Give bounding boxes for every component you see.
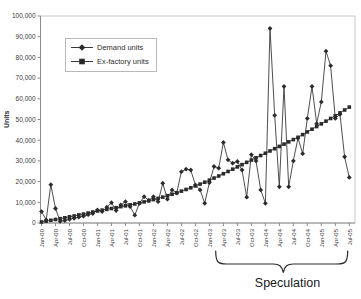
y-tick-label: 90,000	[16, 33, 36, 40]
data-point-square	[161, 195, 165, 199]
legend-item-ex-factory: Ex-factory units	[71, 55, 149, 68]
data-point-square	[86, 211, 90, 215]
x-tick-label: Oct-01	[137, 228, 143, 247]
y-tick-label: 0	[32, 219, 36, 226]
data-point-diamond	[132, 213, 137, 218]
data-point-diamond	[347, 175, 352, 180]
legend-item-demand: Demand units	[71, 41, 149, 54]
ex-factory-series-marker-icon	[71, 57, 93, 66]
data-point-diamond	[48, 182, 53, 187]
data-point-square	[282, 142, 286, 146]
data-point-square	[226, 170, 230, 174]
data-point-square	[40, 220, 44, 224]
data-point-square	[264, 151, 268, 155]
data-point-square	[334, 114, 338, 118]
y-tick-label: 50,000	[16, 116, 36, 123]
y-axis-title: Units	[3, 111, 10, 129]
x-tick-label: Jul-05	[347, 228, 353, 245]
x-tick-label: Jan-01	[95, 228, 101, 247]
data-point-square	[208, 178, 212, 182]
data-point-square	[142, 200, 146, 204]
data-point-diamond	[258, 187, 263, 192]
x-tick-label: Apr-02	[165, 228, 171, 247]
data-point-square	[152, 198, 156, 202]
x-tick-label: Apr-01	[109, 228, 115, 247]
data-point-square	[100, 208, 104, 212]
data-point-diamond	[328, 63, 333, 68]
data-point-diamond	[342, 154, 347, 159]
data-point-square	[184, 188, 188, 192]
data-point-square	[82, 212, 86, 216]
data-point-square	[49, 219, 53, 223]
data-point-diamond	[39, 209, 44, 214]
data-point-diamond	[272, 113, 277, 118]
demand-series-marker-icon	[71, 43, 93, 52]
data-point-square	[338, 111, 342, 115]
data-point-diamond	[160, 181, 165, 186]
data-point-diamond	[282, 84, 287, 89]
data-point-diamond	[235, 159, 240, 164]
data-point-square	[315, 125, 319, 129]
y-tick-label: 30,000	[16, 157, 36, 164]
data-point-square	[254, 156, 258, 160]
data-point-diamond	[179, 169, 184, 174]
data-point-square	[287, 140, 291, 144]
y-tick-label: 70,000	[16, 74, 36, 81]
x-tick-label: Oct-03	[249, 228, 255, 247]
data-point-square	[273, 147, 277, 151]
x-tick-label: Jul-01	[123, 228, 129, 245]
data-point-diamond	[240, 168, 245, 173]
data-point-square	[292, 138, 296, 142]
data-point-square	[44, 219, 48, 223]
chart-figure: 010,00020,00030,00040,00050,00060,00070,…	[0, 0, 361, 299]
data-point-diamond	[184, 167, 189, 172]
x-tick-label: Jul-03	[235, 228, 241, 245]
data-point-square	[324, 119, 328, 123]
data-point-diamond	[305, 116, 310, 121]
data-point-square	[231, 167, 235, 171]
data-point-diamond	[263, 201, 268, 206]
x-tick-label: Oct-02	[193, 228, 199, 247]
data-point-square	[96, 209, 100, 213]
data-point-square	[170, 192, 174, 196]
data-point-square	[222, 172, 226, 176]
data-point-square	[245, 161, 249, 165]
data-point-diamond	[221, 140, 226, 145]
y-tick-label: 20,000	[16, 178, 36, 185]
data-point-diamond	[286, 184, 291, 189]
y-tick-label: 80,000	[16, 54, 36, 61]
x-tick-label: Apr-04	[277, 228, 283, 247]
data-point-diamond	[165, 197, 170, 202]
data-point-square	[250, 158, 254, 162]
speculation-annotation-label: Speculation	[230, 276, 345, 290]
y-tick-label: 100,000	[12, 12, 36, 19]
data-point-diamond	[216, 166, 221, 171]
x-tick-label: Apr-05	[333, 228, 339, 247]
y-tick-label: 60,000	[16, 95, 36, 102]
data-point-square	[68, 215, 72, 219]
x-tick-label: Jan-03	[207, 228, 213, 247]
data-point-square	[240, 163, 244, 167]
data-point-square	[128, 203, 132, 207]
data-point-square	[91, 210, 95, 214]
x-tick-label: Jan-02	[151, 228, 157, 247]
x-tick-label: Apr-00	[53, 228, 59, 247]
data-point-square	[306, 130, 310, 134]
data-point-square	[343, 108, 347, 112]
data-point-diamond	[300, 151, 305, 156]
y-tick-label: 10,000	[16, 199, 36, 206]
x-tick-label: Jul-00	[67, 228, 73, 245]
data-point-square	[166, 194, 170, 198]
data-point-square	[105, 208, 109, 212]
x-tick-label: Jul-04	[291, 228, 297, 245]
data-point-diamond	[212, 164, 217, 169]
data-point-diamond	[291, 159, 296, 164]
data-point-square	[124, 204, 128, 208]
data-point-square	[147, 199, 151, 203]
x-tick-label: Jan-05	[319, 228, 325, 247]
data-point-square	[138, 201, 142, 205]
x-tick-label: Apr-03	[221, 228, 227, 247]
data-point-square	[203, 180, 207, 184]
data-point-square	[348, 105, 352, 109]
legend-label-demand: Demand units	[97, 43, 143, 52]
